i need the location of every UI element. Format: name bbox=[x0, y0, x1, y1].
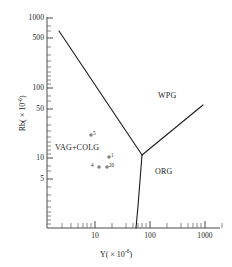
y-axis-major-ticks bbox=[47, 18, 53, 179]
sample-marker-4 bbox=[97, 165, 101, 169]
vag-org-boundary bbox=[136, 155, 142, 228]
y-tick-label-10: 10 bbox=[8, 153, 44, 162]
y-axis-unit-exponent: -6 bbox=[17, 98, 23, 103]
wpg-org-boundary bbox=[142, 105, 203, 155]
x-axis-title: Y( × 10-6) bbox=[66, 248, 166, 259]
x-axis-unit-suffix: ) bbox=[129, 250, 132, 259]
sample-label-4: 4 bbox=[91, 162, 94, 168]
y-axis-unit-prefix: ( × 10 bbox=[18, 103, 27, 122]
sample-label-1: 1 bbox=[111, 152, 114, 158]
y-axis-unit-suffix: ) bbox=[18, 95, 27, 98]
x-axis-unit-prefix: ( × 10 bbox=[106, 250, 125, 259]
field-label-org: ORG bbox=[155, 167, 173, 176]
x-tick-label-1000: 1000 bbox=[191, 231, 219, 240]
y-axis-minor-ticks bbox=[47, 26, 51, 224]
sample-label-20: 20 bbox=[109, 162, 114, 168]
x-tick-label-100: 100 bbox=[136, 231, 164, 240]
y-tick-label-5: 5 bbox=[8, 174, 44, 183]
y-tick-label-500: 500 bbox=[8, 33, 44, 42]
field-label-wpg: WPG bbox=[158, 91, 176, 100]
x-tick-label-10: 10 bbox=[81, 231, 109, 240]
vag-wpg-boundary bbox=[59, 31, 142, 155]
x-axis-minor-ticks bbox=[62, 223, 222, 228]
sample-label-5: 5 bbox=[93, 130, 96, 136]
field-label-vag-colg: VAG+COLG bbox=[55, 143, 99, 152]
field-boundaries bbox=[59, 31, 203, 228]
y-axis-title: Rb( × 10-6) bbox=[17, 83, 28, 143]
y-tick-label-1000: 1000 bbox=[8, 13, 44, 22]
y-axis-title-variable: Rb bbox=[18, 122, 27, 131]
rb-y-discrimination-chart: 1000 500 100 50 10 5 10 100 1000 Rb( × 1… bbox=[0, 0, 232, 267]
x-axis-major-ticks bbox=[95, 221, 205, 228]
